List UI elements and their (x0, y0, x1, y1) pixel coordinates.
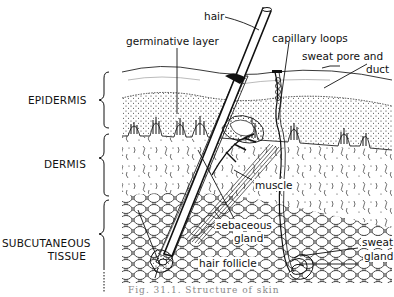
label-sweat-gland-line2: gland (363, 250, 394, 262)
layer-label-dermis: DERMIS (44, 158, 86, 171)
label-hair: hair (204, 10, 224, 22)
label-germinative-layer: germinative layer (126, 35, 219, 47)
label-sebaceous-line1: sebaceous (215, 219, 273, 231)
label-sweat-pore-line1: sweat pore and (302, 50, 383, 62)
label-muscle: muscle (254, 179, 294, 191)
layer-label-subcutaneous-line2: TISSUE (2, 250, 86, 263)
layer-label-epidermis: EPIDERMIS (28, 94, 87, 107)
label-capillary-loops: capillary loops (272, 32, 348, 44)
label-sweat-pore-line2: duct (366, 63, 389, 75)
label-sweat-gland-line1: sweat (361, 236, 394, 248)
layer-label-subcutaneous: SUBCUTANEOUS TISSUE (2, 237, 86, 263)
figure-caption: Fig. 31.1. Structure of skin (128, 285, 280, 295)
layer-label-subcutaneous-line1: SUBCUTANEOUS (2, 237, 86, 250)
label-hair-follicle: hair follicle (198, 257, 258, 269)
label-sebaceous-line2: gland (233, 232, 264, 244)
